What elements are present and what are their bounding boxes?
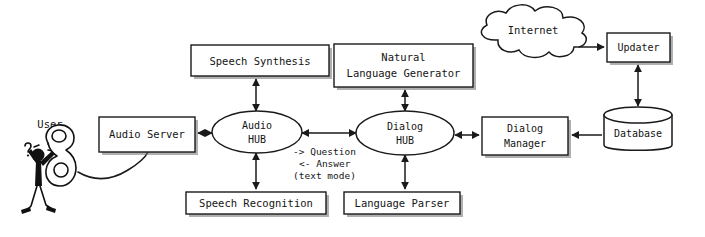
architecture-diagram: Speech Synthesis Natural Language Genera… [0, 0, 705, 237]
dialog-hub-label-line2: HUB [396, 135, 414, 146]
audio-hub-shape [212, 111, 302, 153]
node-language-parser[interactable]: Language Parser [344, 192, 463, 217]
speech-synthesis-label: Speech Synthesis [209, 55, 310, 67]
node-dialog-hub[interactable]: Dialog HUB [356, 111, 454, 155]
node-speech-synthesis[interactable]: Speech Synthesis [191, 45, 332, 79]
annotation-answer: <- Answer [299, 158, 351, 169]
node-natural-language-generator[interactable]: Natural Language Generator [334, 44, 476, 90]
edge-user-audioserver-cable [78, 152, 148, 179]
nlg-label-line2: Language Generator [347, 67, 461, 79]
node-user[interactable]: User [21, 118, 76, 214]
updater-label: Updater [617, 42, 659, 53]
diagram-canvas: Speech Synthesis Natural Language Genera… [0, 0, 705, 237]
dialog-hub-shape [356, 111, 454, 155]
flow-annotations: -> Question <- Answer (text mode) [293, 146, 356, 181]
dialog-manager-label-line1: Dialog [507, 123, 543, 134]
annotation-question: -> Question [293, 146, 356, 157]
node-internet[interactable]: Internet [481, 5, 586, 58]
node-updater[interactable]: Updater [607, 33, 673, 65]
database-label: Database [614, 128, 662, 139]
node-audio-server[interactable]: Audio Server [99, 117, 198, 155]
internet-label: Internet [508, 24, 559, 36]
audio-hub-label-line1: Audio [242, 120, 272, 131]
speech-recognition-label: Speech Recognition [199, 197, 313, 209]
node-database[interactable]: Database [604, 107, 672, 150]
dialog-hub-label-line1: Dialog [387, 121, 423, 132]
language-parser-label: Language Parser [355, 197, 450, 209]
annotation-text-mode: (text mode) [293, 170, 356, 181]
nlg-label-line1: Natural [381, 51, 425, 63]
node-dialog-manager[interactable]: Dialog Manager [482, 117, 571, 158]
node-audio-hub[interactable]: Audio HUB [212, 111, 302, 153]
dialog-manager-label-line2: Manager [504, 138, 546, 149]
audio-server-label: Audio Server [109, 128, 185, 140]
node-speech-recognition[interactable]: Speech Recognition [186, 192, 329, 217]
database-top [604, 107, 672, 123]
audio-hub-label-line2: HUB [248, 134, 266, 145]
